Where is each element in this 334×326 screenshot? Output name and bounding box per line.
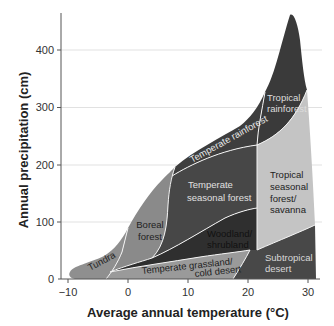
x-tick-30: 30 — [302, 286, 314, 298]
label-temperate-seasonal-1: Temperate — [188, 179, 233, 190]
label-tropical-seasonal-3: forest/ — [270, 193, 297, 204]
biome-chart: 0 100 200 300 400 −10 0 10 20 30 Average… — [0, 0, 334, 326]
label-tropical-rainforest-1: Tropical — [267, 92, 300, 103]
x-axis-title: Average annual temperature (°C) — [87, 305, 289, 320]
x-tick-0: 0 — [125, 286, 131, 298]
y-tick-400: 400 — [36, 44, 54, 56]
label-subtropical-2: desert — [265, 263, 292, 274]
label-subtropical-1: Subtropical — [265, 252, 313, 263]
label-tropical-seasonal-2: seasonal — [270, 181, 308, 192]
label-boreal-2: forest — [138, 231, 162, 242]
y-tick-0: 0 — [48, 273, 54, 285]
label-tropical-seasonal-1: Tropical — [270, 169, 303, 180]
label-tropical-seasonal-4: savanna — [270, 204, 307, 215]
y-tick-300: 300 — [36, 101, 54, 113]
label-woodland-2: shrubland — [207, 239, 249, 250]
label-boreal-1: Boreal — [136, 219, 163, 230]
x-tick-10: 10 — [182, 286, 194, 298]
y-axis-title: Annual precipitation (cm) — [16, 72, 31, 229]
y-tick-200: 200 — [36, 159, 54, 171]
x-tick-20: 20 — [242, 286, 254, 298]
label-temperate-seasonal-2: seasonal forest — [187, 192, 252, 203]
label-woodland-1: Woodland/ — [207, 228, 253, 239]
label-tropical-rainforest-2: rainforest — [267, 103, 307, 114]
y-tick-100: 100 — [36, 216, 54, 228]
x-tick-neg10: −10 — [59, 286, 78, 298]
